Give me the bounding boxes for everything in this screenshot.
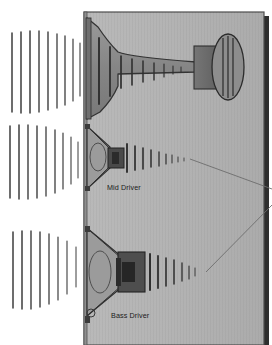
mid-driver-top-mount [85,124,90,129]
bass-driver-pole-piece [122,262,135,282]
mid-driver-label: Mid Driver [107,183,141,192]
bass-driver-top-mount [85,226,90,232]
horn-mouth-lip [86,18,91,119]
mid-driver-bottom-mount [85,186,90,191]
diagram-canvas: Mid Driver Bass Driver [0,0,272,345]
speaker-cross-section-svg: Mid Driver Bass Driver [0,0,272,345]
bass-driver-label: Bass Driver [111,311,150,320]
bass-driver-voice-coil [116,258,121,286]
mid-driver-pole-piece [112,152,119,164]
